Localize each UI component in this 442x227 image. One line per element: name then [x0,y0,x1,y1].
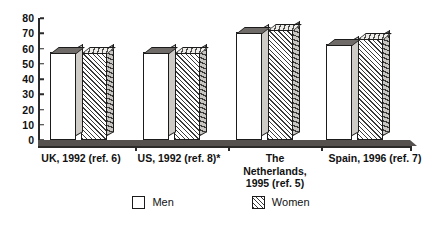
bar-face-face [357,38,383,140]
legend-item-men: Men [132,196,173,209]
bar-face-face [236,32,262,140]
bar-side-face [293,21,300,136]
bar-group-3 [326,18,396,140]
legend-label-women: Women [272,197,310,208]
bar-face-face [50,52,76,140]
bar-face-face [143,52,169,140]
x-axis-tick-4 [410,146,412,151]
category-label-line: The [222,152,328,165]
bar-face-face [81,52,107,140]
category-label-line: Netherlands, [222,165,328,178]
bar-group-1 [143,18,213,140]
x-axis-tick-2 [228,146,230,151]
bar-women-3 [357,38,383,140]
bar-men-3 [326,44,352,140]
plot-area [38,18,410,140]
y-axis-tick-70: 70 [22,28,34,39]
bar-women-0 [81,52,107,140]
bar-women-1 [174,52,200,140]
bar-group-2 [236,18,306,140]
category-label-line: Spain, 1996 (ref. 7) [316,152,434,165]
y-axis-tick-40: 40 [22,74,34,85]
category-label-line: UK, 1992 (ref. 6) [26,152,136,165]
x-axis-tick-3 [321,146,323,151]
bar-side-face [200,44,207,136]
y-axis-tick-50: 50 [22,59,34,70]
bar-side-face [169,44,176,136]
y-axis-tick-10: 10 [22,120,34,131]
bar-side-face [383,30,390,136]
y-axis-tick-30: 30 [22,89,34,100]
x-axis-category-label-0: UK, 1992 (ref. 6) [26,152,136,165]
legend-label-men: Men [152,197,173,208]
y-axis-tick-0: 0 [28,135,34,146]
legend-item-women: Women [252,196,310,209]
y-axis-tick-80: 80 [22,13,34,24]
bar-men-0 [50,52,76,140]
bar-side-face [107,44,114,136]
legend-swatch-women-icon [252,196,265,209]
bar-face-face [326,44,352,140]
bar-side-face [262,24,269,136]
bar-side-face [352,36,359,136]
y-axis-tick-20: 20 [22,104,34,115]
bar-men-2 [236,32,262,140]
x-axis-category-label-2: TheNetherlands,1995 (ref. 5) [222,152,328,190]
y-axis-tick-60: 60 [22,43,34,54]
bar-side-face [76,44,83,136]
x-axis-category-label-3: Spain, 1996 (ref. 7) [316,152,434,165]
bar-face-face [267,29,293,140]
category-label-line: 1995 (ref. 5) [222,177,328,190]
x-axis-line [38,146,410,148]
y-axis-tick-labels: 01020304050607080 [0,18,34,140]
category-label-line: US, 1992 (ref. 8)* [121,152,237,165]
x-axis-tick-1 [135,146,137,151]
bar-chart: 01020304050607080 UK, 1992 (ref. 6) US, … [0,0,442,227]
chart-legend: Men Women [0,196,442,209]
bar-face-face [174,52,200,140]
bar-group-0 [50,18,120,140]
legend-swatch-men-icon [132,196,145,209]
x-axis-category-label-1: US, 1992 (ref. 8)* [121,152,237,165]
bar-women-2 [267,29,293,140]
bar-men-1 [143,52,169,140]
